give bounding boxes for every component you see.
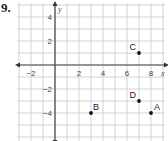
point-label-c: C: [130, 42, 137, 52]
point-label-b: B: [93, 102, 99, 112]
point-d: [137, 99, 141, 103]
x-axis-arrow-left-icon: [15, 63, 20, 68]
y-axis-arrow-down-icon: [53, 140, 58, 141]
x-tick-label: 6: [125, 69, 130, 78]
x-axis-label: x: [160, 69, 165, 78]
x-tick-label: −2: [26, 69, 36, 78]
point-label-d: D: [130, 90, 137, 100]
x-tick-label: 8: [149, 69, 154, 78]
point-c: [137, 51, 141, 55]
point-label-a: A: [154, 102, 160, 112]
x-tick-label: 2: [77, 69, 82, 78]
y-tick-label: 2: [48, 37, 53, 46]
point-a: [149, 111, 153, 115]
y-tick-label: 4: [48, 13, 53, 22]
y-tick-label: −4: [43, 109, 53, 118]
x-tick-label: 4: [101, 69, 106, 78]
x-axis-arrow-right-icon: [164, 63, 168, 68]
y-axis-arrow-up-icon: [53, 1, 58, 6]
y-tick-label: −2: [43, 85, 53, 94]
coordinate-plane: xy−2246842−2−4ABCD: [0, 0, 168, 141]
y-axis-label: y: [57, 5, 62, 14]
